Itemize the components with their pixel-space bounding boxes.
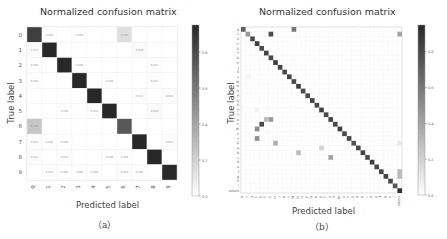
y-tick-label: N [237, 84, 240, 88]
x-tick-label: F [263, 196, 267, 198]
matrix-cell [264, 51, 269, 56]
x-tick-label: b [360, 196, 364, 198]
y-tick-label: g [237, 175, 239, 179]
y-tick-label: L [237, 75, 239, 79]
matrix-cell [305, 93, 310, 98]
x-tick-label: R [314, 195, 318, 198]
y-tick-label: E [237, 47, 239, 51]
y-tick-label: K [237, 70, 240, 74]
x-tick-label: X [342, 195, 346, 198]
y-tick-label: X [237, 132, 240, 136]
matrix-cell [269, 117, 274, 122]
y-tick-label: others [229, 189, 239, 193]
matrix-cell [361, 150, 366, 155]
x-tick-label: S [319, 196, 323, 198]
x-tick-label: U [328, 195, 332, 198]
y-tick-label: f [238, 170, 240, 174]
x-tick-label: e [374, 196, 378, 198]
matrix-cell [250, 36, 255, 41]
matrix-cell [374, 165, 379, 170]
x-tick-label: a [355, 196, 359, 198]
x-tick-label: V [332, 195, 336, 198]
matrix-cell [246, 32, 251, 37]
y-tick-label: i [238, 184, 239, 188]
colorbar-tick-label: 0.0 [428, 194, 434, 198]
y-tick-label: S [237, 108, 239, 112]
right-caption: （b） [310, 220, 334, 233]
matrix-cell [310, 98, 315, 103]
x-tick-label: Y [346, 196, 350, 198]
x-tick-label: C [254, 195, 258, 198]
right-x-axis-label: Predicted label [292, 206, 355, 216]
colorbar-tick-label: 0.4 [428, 122, 434, 126]
x-tick-label: E [259, 196, 263, 198]
matrix-cell [370, 160, 375, 165]
matrix-cell [301, 89, 306, 94]
colorbar-tick-label: 0.8 [428, 50, 434, 54]
y-tick-label: c [237, 156, 239, 160]
matrix-cell [269, 32, 274, 37]
matrix-cell [259, 122, 264, 127]
x-tick-label: H [273, 195, 277, 198]
y-tick-label: b [237, 151, 239, 155]
matrix-cell [278, 65, 283, 70]
matrix-cell [397, 32, 402, 37]
x-tick-label: i [392, 196, 396, 197]
y-tick-label: 0 [237, 28, 239, 32]
matrix-cell [319, 146, 324, 151]
matrix-cell [384, 174, 389, 179]
y-tick-label: e [237, 165, 239, 169]
x-tick-label: L [286, 196, 290, 198]
matrix-cell [296, 150, 301, 155]
matrix-cell [282, 70, 287, 75]
x-tick-label: c [365, 196, 369, 198]
matrix-cell [255, 108, 260, 113]
matrix-cell [397, 188, 402, 193]
y-tick-label: R [237, 103, 240, 107]
y-tick-label: H [237, 61, 240, 65]
y-tick-label: F [237, 51, 239, 55]
x-tick-label: others [397, 196, 401, 206]
matrix-cell [365, 155, 370, 160]
x-tick-label: K [282, 195, 286, 198]
matrix-cell [315, 103, 320, 108]
x-tick-label: M [291, 196, 295, 199]
colorbar-tick-label: 0.6 [428, 86, 434, 90]
matrix-cell [259, 46, 264, 51]
x-tick-label: T [323, 196, 327, 199]
matrix-cell [351, 141, 356, 146]
x-tick-label: f [378, 195, 382, 197]
matrix-cell [255, 136, 260, 141]
x-tick-label: W [337, 195, 341, 199]
matrix-cell [292, 79, 297, 84]
matrix-cell [296, 84, 301, 89]
x-tick-label: 0 [240, 196, 244, 198]
matrix-cell [246, 74, 251, 79]
x-tick-label: g [383, 196, 387, 198]
y-tick-label: W [236, 127, 240, 131]
y-tick-label: C [237, 42, 240, 46]
matrix-cell [273, 60, 278, 65]
x-tick-label: d [369, 196, 373, 198]
matrix-cell [342, 131, 347, 136]
x-tick-label: G [268, 195, 272, 198]
matrix-cell [379, 169, 384, 174]
y-tick-label: O [236, 89, 239, 93]
matrix-cell [338, 127, 343, 132]
right-matrix-grid: 001122CCEEFFGGHHJJKKLLMMNNOOPPQQRRSSTTUU… [229, 27, 402, 206]
matrix-cell [388, 179, 393, 184]
matrix-cell [324, 112, 329, 117]
matrix-cell [255, 41, 260, 46]
matrix-cell [356, 146, 361, 151]
matrix-cell [287, 74, 292, 79]
colorbar-tick-label: 0.2 [428, 158, 434, 162]
y-tick-label: 2 [237, 37, 239, 41]
x-tick-label: Z [351, 195, 355, 198]
matrix-cell [397, 169, 402, 174]
x-tick-label: N [296, 195, 300, 198]
right-colorbar: 0.00.20.40.60.8 [418, 25, 434, 198]
x-tick-label: 1 [245, 196, 249, 198]
y-tick-label: G [237, 56, 240, 60]
matrix-cell [264, 117, 269, 122]
y-tick-label: d [237, 160, 239, 164]
